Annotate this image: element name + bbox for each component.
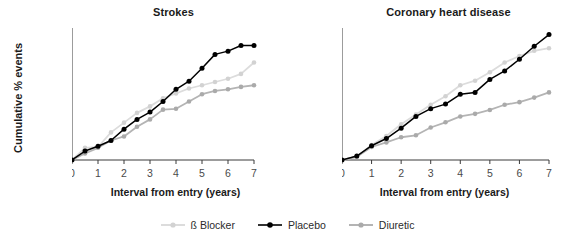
legend-key-diuretic <box>348 216 374 234</box>
x-tick-label: 4 <box>173 167 179 179</box>
x-tick-label: 0 <box>72 167 75 179</box>
series-diuretic <box>72 83 256 162</box>
x-tick-label: 1 <box>95 167 101 179</box>
plot-svg-chd: 024681001234567 <box>342 24 557 184</box>
legend-key-placebo <box>257 216 283 234</box>
x-tick-label: 3 <box>428 167 434 179</box>
x-tick-label: 3 <box>147 167 153 179</box>
x-tick-label: 6 <box>225 167 231 179</box>
chart-title-strokes: Strokes <box>0 6 317 18</box>
plot-area-strokes: 0246801234567 <box>72 24 262 184</box>
legend-label-beta-blocker: ß Blocker <box>191 219 235 231</box>
plot-area-chd: 024681001234567 <box>342 24 557 184</box>
x-axis-label-strokes: Interval from entry (years) <box>0 186 319 198</box>
chart-panel-strokes: Strokes Cumulative % events 024680123456… <box>0 0 287 210</box>
chart-panel-chd: Coronary heart disease 024681001234567 I… <box>287 0 574 210</box>
x-tick-label: 2 <box>121 167 127 179</box>
legend-label-diuretic: Diuretic <box>379 219 415 231</box>
x-tick-label: 6 <box>517 167 523 179</box>
figure-root: Strokes Cumulative % events 024680123456… <box>0 0 574 247</box>
x-tick-label: 5 <box>199 167 205 179</box>
chart-legend: ß Blocker Placebo Diuretic <box>14 216 560 234</box>
x-tick-label: 5 <box>487 167 493 179</box>
x-axis-label-chd: Interval from entry (years) <box>287 186 574 198</box>
legend-key-beta-blocker <box>160 216 186 234</box>
plot-svg-strokes: 0246801234567 <box>72 24 262 184</box>
x-tick-label: 2 <box>398 167 404 179</box>
legend-item-beta-blocker: ß Blocker <box>160 216 235 234</box>
x-tick-label: 0 <box>342 167 345 179</box>
y-axis-label: Cumulative % events <box>12 28 24 168</box>
legend-item-placebo: Placebo <box>257 216 326 234</box>
legend-item-diuretic: Diuretic <box>348 216 415 234</box>
x-tick-label: 4 <box>457 167 463 179</box>
x-tick-label: 7 <box>251 167 257 179</box>
series-placebo <box>72 43 257 163</box>
chart-title-chd: Coronary heart disease <box>287 6 574 18</box>
legend-label-placebo: Placebo <box>288 219 326 231</box>
x-tick-label: 7 <box>546 167 552 179</box>
series-diuretic <box>342 90 551 162</box>
x-tick-label: 1 <box>369 167 375 179</box>
